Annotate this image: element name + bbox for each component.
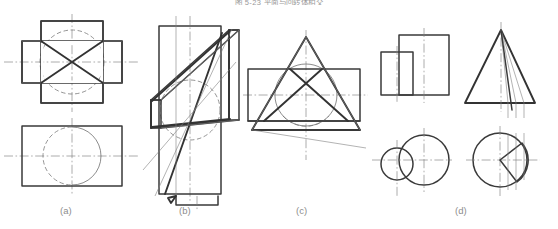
- subfigure-label-d: (d): [455, 205, 467, 216]
- drawing-canvas: .thick { stroke:#333333; stroke-width:1.…: [0, 0, 558, 229]
- subfigure-label-c: (c): [296, 205, 307, 216]
- canvas-background: [0, 0, 558, 229]
- subfigure-label-a: (a): [60, 205, 72, 216]
- technical-drawing-figure: 图 5-23 平面与回转体相交 .thick { stroke:#333333;…: [0, 0, 558, 229]
- figure-title: 图 5-23 平面与回转体相交: [0, 0, 558, 5]
- subfigure-label-b: (b): [179, 205, 191, 216]
